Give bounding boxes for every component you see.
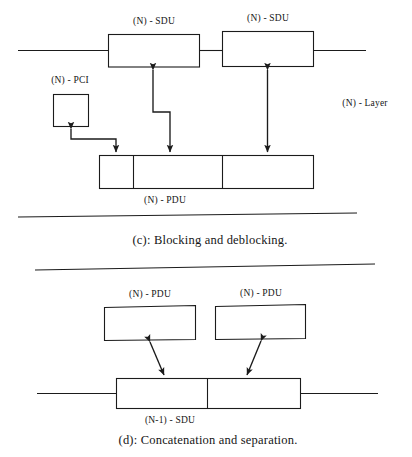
pdu-to-sdu-left-arrow (153, 70, 170, 152)
pdu-bar (100, 156, 314, 189)
pdu-right-mapping-arrow (247, 341, 261, 375)
panel-c (18, 32, 366, 218)
pdu-to-pci-arrow (71, 129, 116, 152)
pdu-left-mapping-arrow (150, 342, 164, 375)
pdu-left-label: (N) - PDU (129, 290, 171, 300)
sdu-bar (117, 379, 301, 409)
sdu-right-box (223, 32, 314, 67)
panel-c-caption: (c): Blocking and deblocking. (132, 234, 287, 247)
sdu-left-box (109, 35, 200, 68)
panel-d-caption: (d): Concatenation and separation. (119, 434, 298, 447)
protocol-data-unit-figure (0, 0, 412, 457)
panel-d (35, 264, 378, 409)
pdu-left-box (105, 306, 196, 341)
pci-label: (N) - PCI (51, 76, 89, 86)
sdu-left-label: (N) - SDU (133, 17, 175, 27)
panel-d-divider (35, 264, 375, 270)
pdu-label: (N) - PDU (144, 196, 186, 206)
panel-c-divider (18, 213, 357, 217)
sdu-right-label: (N) - SDU (247, 14, 289, 24)
pdu-right-label: (N) - PDU (240, 289, 282, 299)
layer-label: (N) - Layer (342, 99, 387, 109)
sdu-label: (N-1) - SDU (145, 416, 195, 426)
pdu-right-box (216, 305, 306, 340)
pci-box (54, 95, 89, 127)
